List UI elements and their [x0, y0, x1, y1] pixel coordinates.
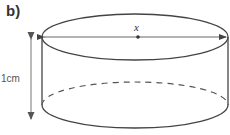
centre-point [136, 35, 140, 39]
cylinder-diagram [0, 0, 230, 135]
bottom-back-dashed-arc [42, 82, 228, 105]
bottom-front-arc [42, 105, 228, 128]
